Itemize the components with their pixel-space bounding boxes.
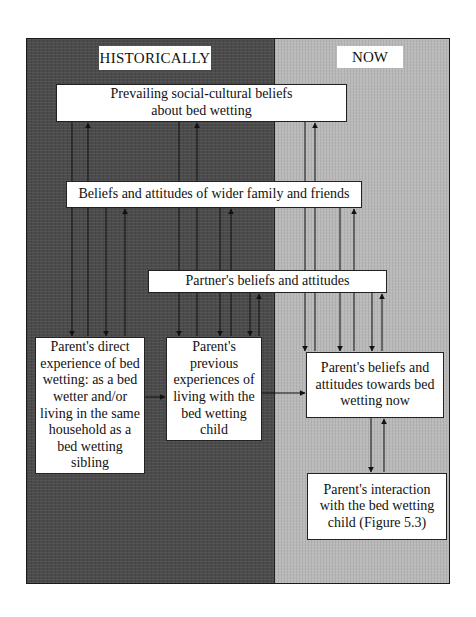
- partner-beliefs-box: Partner's beliefs and attitudes: [148, 270, 387, 293]
- interaction-box: Parent's interaction with the bed wettin…: [307, 473, 447, 540]
- historically-label: HISTORICALLY: [99, 46, 211, 70]
- beliefs-now-box: Parent's beliefs and attitudes towards b…: [306, 352, 444, 418]
- now-label: NOW: [337, 46, 403, 68]
- wider-family-beliefs-box: Beliefs and attitudes of wider family an…: [66, 181, 362, 208]
- social-cultural-beliefs-box: Prevailing social-cultural beliefs about…: [56, 84, 347, 122]
- direct-experience-box: Parent's direct experience of bed wettin…: [35, 337, 145, 474]
- previous-experiences-box: Parent's previous experiences of living …: [166, 337, 262, 441]
